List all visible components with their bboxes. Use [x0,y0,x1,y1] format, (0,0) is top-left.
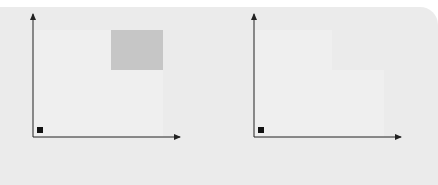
origin-marker [258,127,264,133]
shaded-region [111,30,163,70]
origin-marker [37,127,43,133]
panel-a [0,0,180,137]
figure-canvas [0,0,438,185]
